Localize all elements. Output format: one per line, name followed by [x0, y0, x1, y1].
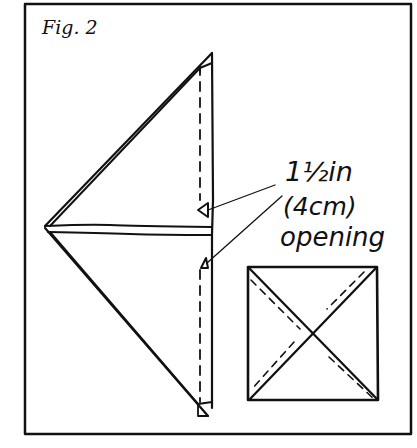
figure-stage: Fig. 2 [0, 0, 417, 448]
diagram-canvas: Fig. 2 [0, 0, 417, 448]
annotation-line-1: 1½in [285, 156, 353, 187]
center-fold [45, 225, 212, 235]
opening-arrow-upper [198, 203, 208, 217]
annotation-line-3: opening [280, 222, 385, 252]
square-detail [248, 267, 378, 400]
leader-line-upper [208, 185, 275, 210]
figure-title: Fig. 2 [41, 16, 98, 38]
annotation-line-2: (4cm) [283, 192, 357, 221]
opening-annotation: 1½in (4cm) opening [280, 156, 385, 252]
